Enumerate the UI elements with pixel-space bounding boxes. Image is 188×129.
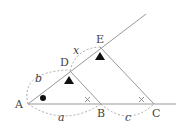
- angle-mark-triangle-icon: [95, 52, 105, 60]
- angle-mark-triangle-icon: [64, 76, 74, 84]
- point-label-b: B: [97, 107, 105, 120]
- segment-label-a: a: [58, 111, 65, 124]
- segment-ec: [100, 47, 154, 104]
- point-label-d: D: [60, 56, 69, 69]
- angle-mark-cross-icon: [139, 97, 144, 102]
- point-label-e: E: [96, 33, 104, 46]
- point-label-a: A: [14, 98, 24, 111]
- point-label-c: C: [152, 107, 160, 120]
- angle-mark-circle-icon: [40, 95, 46, 101]
- angle-mark-cross-icon: [85, 97, 90, 102]
- ray-ade: [28, 14, 146, 104]
- segment-label-b: b: [35, 72, 42, 85]
- segment-label-c: c: [125, 111, 131, 124]
- arc-b: [27, 70, 68, 104]
- segment-db: [70, 71, 101, 104]
- segment-label-x: x: [73, 44, 80, 57]
- geometry-diagram: A B C D E b x a c: [0, 0, 188, 129]
